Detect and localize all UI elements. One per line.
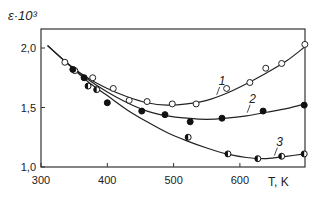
filled-circle-marker — [219, 115, 225, 121]
open-circle-marker — [169, 101, 175, 107]
filled-circle-marker — [187, 119, 193, 125]
y-axis-label: ε·10³ — [8, 8, 38, 23]
x-tick-label: 400 — [98, 174, 116, 186]
open-circle-marker — [302, 41, 308, 47]
plot-frame — [41, 29, 305, 167]
half-filled-circle-marker — [225, 151, 231, 157]
open-circle-marker — [247, 80, 253, 86]
open-circle-marker — [90, 75, 96, 81]
half-filled-circle-marker — [301, 151, 307, 157]
filled-circle-marker — [81, 75, 87, 81]
line-chart: 3004005006001,01,52,0 123 ε·10³ T, K — [0, 0, 322, 197]
x-tick-label: 600 — [231, 174, 249, 186]
filled-circle-marker — [104, 100, 110, 106]
half-filled-circle-marker — [279, 153, 285, 159]
curve-label-3: 3 — [276, 135, 283, 149]
label-leader — [274, 148, 277, 156]
filled-circle-marker — [301, 102, 307, 108]
open-circle-marker — [62, 59, 68, 65]
y-tick-label: 2,0 — [21, 42, 36, 54]
curve-3 — [48, 46, 305, 159]
filled-circle-marker — [162, 112, 168, 118]
half-filled-circle-marker — [85, 83, 91, 89]
curve-2 — [48, 46, 305, 120]
half-filled-circle-marker — [94, 87, 100, 93]
curve-label-2: 2 — [248, 92, 256, 106]
x-tick-label: 500 — [164, 174, 182, 186]
open-circle-marker — [144, 99, 150, 105]
open-circle-marker — [279, 60, 285, 66]
open-circle-marker — [193, 101, 199, 107]
filled-circle-marker — [139, 108, 145, 114]
open-circle-marker — [126, 97, 132, 103]
y-tick-label: 1,5 — [21, 102, 36, 114]
y-tick-label: 1,0 — [21, 161, 36, 173]
x-axis-label: T, K — [268, 175, 289, 189]
open-circle-marker — [110, 85, 116, 91]
curves — [48, 46, 305, 159]
x-tick-label: 300 — [32, 174, 50, 186]
label-leader — [247, 105, 250, 113]
plot-border — [41, 29, 305, 167]
curve-label-1: 1 — [219, 74, 226, 88]
half-filled-circle-marker — [255, 156, 261, 162]
half-filled-circle-marker — [185, 134, 191, 140]
open-circle-marker — [263, 65, 269, 71]
filled-circle-marker — [70, 66, 76, 72]
label-leader — [217, 87, 220, 95]
data-markers — [62, 41, 308, 161]
chart-container: 3004005006001,01,52,0 123 ε·10³ T, K — [0, 0, 322, 197]
filled-circle-marker — [260, 108, 266, 114]
